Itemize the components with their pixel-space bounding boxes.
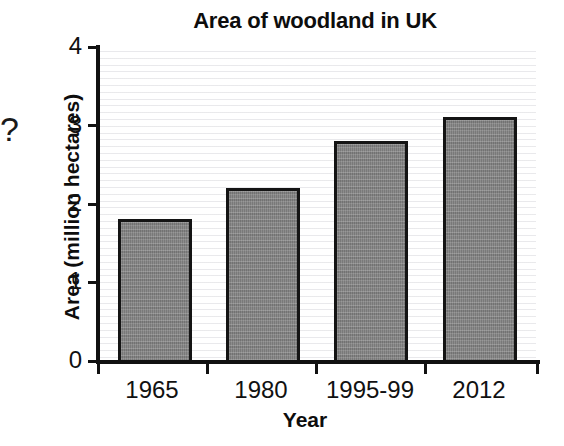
x-tick-2 (315, 362, 318, 374)
y-tick-2 (88, 203, 100, 206)
bar-1965 (118, 219, 192, 362)
y-tick-label-4: 4 (56, 34, 82, 58)
y-tick-label-1: 1 (56, 269, 82, 293)
plot-area (99, 47, 536, 362)
bar-1995-99 (334, 141, 408, 363)
y-tick-4 (88, 46, 100, 49)
bar-1980 (226, 188, 300, 362)
x-tick-end (536, 362, 539, 374)
margin-question-mark: ? (0, 112, 19, 146)
y-tick-label-0: 0 (56, 348, 82, 372)
x-axis-title: Year (205, 408, 405, 432)
y-tick-label-2: 2 (56, 191, 82, 215)
chart-title: Area of woodland in UK (90, 8, 540, 34)
x-tick-1 (206, 362, 209, 374)
bar-2012 (443, 117, 517, 362)
bar-chart: ? Area of woodland in UK Area (million h… (0, 0, 564, 446)
x-tick-start (97, 362, 100, 374)
y-tick-3 (88, 124, 100, 127)
y-tick-label-3: 3 (56, 113, 82, 137)
x-axis-line (96, 360, 540, 364)
x-tick-3 (424, 362, 427, 374)
x-tick-label-2012: 2012 (414, 377, 544, 403)
y-tick-1 (88, 281, 100, 284)
